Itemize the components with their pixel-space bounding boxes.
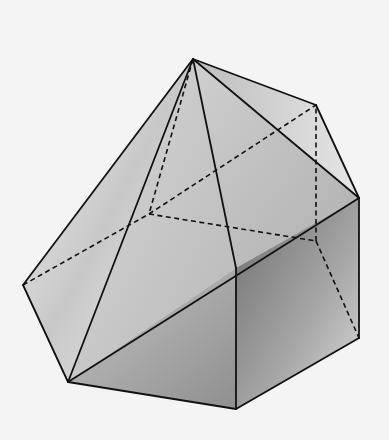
faces-group [23,59,359,409]
polyhedron-diagram [0,0,389,440]
